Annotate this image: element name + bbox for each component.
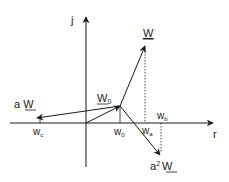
axis-label-j: j [70,14,73,26]
label-wc: wc [32,126,43,138]
vector-w [120,46,145,106]
vector-a2-w [120,106,160,155]
label-vector-a2-w: a2W [150,160,173,172]
label-vector-w: W [143,27,154,39]
axis-label-r: r [213,128,217,140]
label-w0: w0 [113,126,125,138]
vector-diagram: j r W W0 a W a2W wc w0 wa wb [0,0,229,182]
label-vector-w0: W0 [97,92,111,105]
label-wa: wa [141,125,153,137]
label-vector-a-w: a W [14,98,34,110]
label-wb: wb [156,110,168,122]
